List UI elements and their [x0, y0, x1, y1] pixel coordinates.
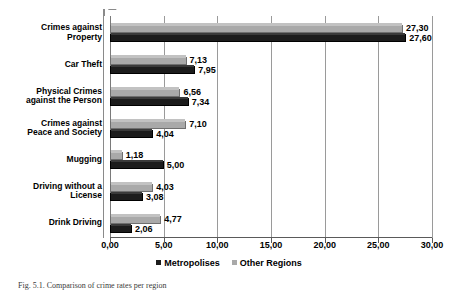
x-axis-tick-mark [164, 238, 165, 243]
plot-area: 27,3027,607,137,956,567,347,104,041,185,… [110, 16, 432, 238]
value-label-other-regions: 7,13 [190, 56, 208, 65]
x-axis-tick-mark [110, 238, 111, 243]
x-axis-tick-mark [432, 238, 433, 243]
category-label: Driving without aLicense [0, 182, 102, 201]
value-label-other-regions: 4,77 [164, 215, 182, 224]
bar-metropolises [110, 66, 195, 74]
category-label: Physical Crimesagainst the Person [0, 87, 102, 106]
bar-metropolises [110, 193, 143, 201]
category-label-line: Property [0, 33, 102, 43]
value-label-metropolises: 27,60 [409, 34, 432, 43]
bar-metropolises [110, 161, 164, 169]
category-label: Crimes againstPeace and Society [0, 119, 102, 138]
bar-other-regions [110, 89, 180, 97]
legend-swatch-icon [232, 260, 237, 265]
category-label-line: Peace and Society [0, 128, 102, 138]
legend-item: Metropolises [156, 258, 220, 268]
value-label-other-regions: 4,03 [156, 183, 174, 192]
bar-other-regions [110, 216, 161, 224]
value-label-metropolises: 4,04 [156, 130, 174, 139]
bar-metropolises [110, 130, 153, 138]
value-label-other-regions: 7,10 [189, 120, 207, 129]
category-label-line: Car Theft [0, 60, 102, 70]
x-axis-tick-labels: 0,005,0010,0015,0020,0025,0030,00 [0, 240, 458, 254]
bar-other-regions [110, 57, 187, 65]
category-label: Crimes againstProperty [0, 23, 102, 42]
axis-depth-left [103, 9, 110, 238]
category-label: Car Theft [0, 60, 102, 70]
category-label: Drink Driving [0, 218, 102, 228]
gridline [432, 16, 433, 238]
bar-rows: 27,3027,607,137,956,567,347,104,041,185,… [110, 16, 432, 238]
value-label-metropolises: 2,06 [135, 225, 153, 234]
value-label-other-regions: 1,18 [126, 151, 144, 160]
bar-other-regions [110, 25, 403, 33]
legend-item: Other Regions [232, 258, 302, 268]
x-axis-tick-mark [271, 238, 272, 243]
legend-swatch-icon [156, 260, 161, 265]
bar-metropolises [110, 225, 132, 233]
legend-label: Other Regions [240, 258, 302, 268]
bar-chart: Crimes againstPropertyCar TheftPhysical … [0, 0, 458, 290]
category-label-line: Drink Driving [0, 218, 102, 228]
bar-metropolises [110, 98, 189, 106]
legend-label: Metropolises [164, 258, 220, 268]
value-label-other-regions: 27,30 [406, 24, 429, 33]
category-label: Mugging [0, 155, 102, 165]
category-axis-labels: Crimes againstPropertyCar TheftPhysical … [0, 16, 106, 238]
bar-other-regions [110, 184, 153, 192]
value-label-metropolises: 5,00 [167, 161, 185, 170]
category-label-line: against the Person [0, 96, 102, 106]
figure-caption: Fig. 5.1. Comparison of crime rates per … [18, 281, 448, 290]
bar-metropolises [110, 34, 406, 42]
value-label-metropolises: 7,34 [192, 98, 210, 107]
bar-other-regions [110, 152, 123, 160]
category-label-line: Mugging [0, 155, 102, 165]
x-axis-tick-mark [378, 238, 379, 243]
axis-depth-top [104, 9, 432, 16]
x-axis-tick-mark [217, 238, 218, 243]
bar-other-regions [110, 121, 186, 129]
chart-legend: MetropolisesOther Regions [0, 258, 458, 268]
category-label-line: License [0, 191, 102, 201]
value-label-metropolises: 3,08 [146, 193, 164, 202]
x-axis-tick-mark [325, 238, 326, 243]
value-label-other-regions: 6,56 [183, 88, 201, 97]
value-label-metropolises: 7,95 [198, 66, 216, 75]
